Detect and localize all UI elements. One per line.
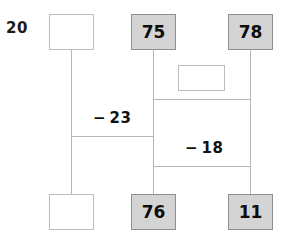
problem-number: 20 [6, 21, 28, 36]
connector-horizontal-right-bottom [153, 166, 251, 167]
connector-middle-vertical [153, 50, 154, 194]
edge-label-right: − 18 [185, 141, 223, 156]
node-box-top-middle[interactable]: 75 [131, 14, 176, 50]
node-box-bottom-middle[interactable]: 76 [131, 194, 176, 230]
connector-left-vertical [71, 50, 72, 194]
connector-horizontal-left [71, 136, 154, 137]
node-box-top-left[interactable] [49, 14, 94, 50]
connector-horizontal-right-top [153, 99, 251, 100]
connector-right-vertical [250, 50, 251, 194]
node-box-mid-center[interactable] [178, 65, 225, 91]
diagram-canvas: 20 75 78 76 11 − 23 − 18 [0, 0, 292, 239]
node-box-bottom-right[interactable]: 11 [228, 194, 273, 230]
node-box-top-right[interactable]: 78 [228, 14, 273, 50]
node-box-bottom-left[interactable] [49, 194, 94, 230]
edge-label-left: − 23 [93, 111, 131, 126]
